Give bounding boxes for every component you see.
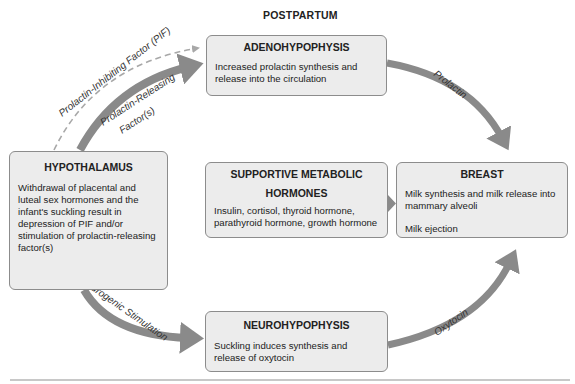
- breast-heading: BREAST: [405, 168, 559, 181]
- supportive-hormones-box: SUPPORTIVE METABOLIC HORMONES Insulin, c…: [205, 162, 388, 238]
- breast-text-1: Milk synthesis and milk release into mam…: [405, 188, 559, 212]
- hypothalamus-text: Withdrawal of placental and luteal sex h…: [18, 182, 159, 254]
- bottom-divider: [10, 379, 570, 381]
- neurohypophysis-box: NEUROHYPOPHYSIS Suckling induces synthes…: [205, 311, 388, 372]
- adenohypophysis-text: Increased prolactin synthesis and releas…: [215, 61, 378, 85]
- adenohypophysis-box: ADENOHYPOPHYSIS Increased prolactin synt…: [206, 35, 387, 96]
- supportive-text: Insulin, cortisol, thyroid hormone, para…: [214, 205, 379, 229]
- neurohypophysis-text: Suckling induces synthesis and release o…: [214, 340, 379, 364]
- hypothalamus-box: HYPOTHALAMUS Withdrawal of placental and…: [9, 151, 168, 290]
- breast-box: BREAST Milk synthesis and milk release i…: [396, 162, 568, 238]
- diagram-title: POSTPARTUM: [263, 9, 338, 21]
- neurohypophysis-heading: NEUROHYPOPHYSIS: [214, 319, 379, 332]
- supportive-heading-1: SUPPORTIVE METABOLIC: [214, 168, 379, 181]
- breast-text-2: Milk ejection: [405, 223, 559, 235]
- adenohypophysis-heading: ADENOHYPOPHYSIS: [215, 41, 378, 54]
- hypothalamus-heading: HYPOTHALAMUS: [18, 161, 159, 174]
- supportive-heading-2: HORMONES: [214, 187, 379, 200]
